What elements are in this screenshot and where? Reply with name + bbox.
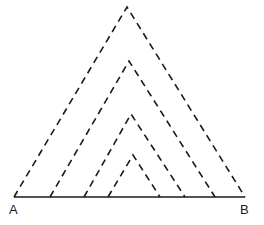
label-b: B bbox=[240, 202, 249, 217]
dashed-triangle-2 bbox=[50, 61, 215, 197]
dashed-triangle-1 bbox=[14, 7, 245, 197]
dashed-triangle-4 bbox=[108, 155, 160, 197]
dashed-triangles bbox=[14, 7, 245, 197]
label-a: A bbox=[9, 202, 18, 217]
nested-triangles-diagram: A B bbox=[0, 0, 264, 225]
